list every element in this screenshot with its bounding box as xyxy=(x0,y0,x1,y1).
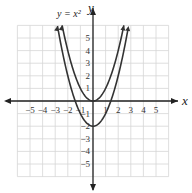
svg-text:2: 2 xyxy=(116,105,121,115)
svg-text:−4: −4 xyxy=(80,146,90,156)
svg-text:1: 1 xyxy=(86,83,91,93)
svg-text:3: 3 xyxy=(86,58,91,68)
svg-text:−5: −5 xyxy=(80,159,90,169)
y-axis-label: y xyxy=(86,0,94,15)
equation-label: y = x² xyxy=(56,8,82,19)
svg-text:5: 5 xyxy=(86,33,91,43)
x-axis-label: x xyxy=(181,93,188,108)
svg-text:−3: −3 xyxy=(80,134,90,144)
svg-text:−5: −5 xyxy=(25,105,35,115)
svg-text:2: 2 xyxy=(86,71,91,81)
svg-text:4: 4 xyxy=(141,105,146,115)
parabola-chart: −5−4−3−2−11234554321−1−2−3−4−5 x y y = x… xyxy=(0,0,192,193)
svg-text:4: 4 xyxy=(86,46,91,56)
svg-text:5: 5 xyxy=(154,105,159,115)
svg-text:−4: −4 xyxy=(38,105,48,115)
svg-text:3: 3 xyxy=(129,105,134,115)
svg-text:−2: −2 xyxy=(80,121,90,131)
svg-text:−3: −3 xyxy=(50,105,60,115)
svg-text:−2: −2 xyxy=(63,105,73,115)
